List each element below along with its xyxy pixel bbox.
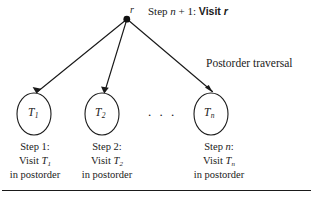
- step-caption-2-line2: Visit T2: [70, 154, 144, 168]
- step-caption-2-target-sub: 2: [119, 160, 123, 168]
- root-step-annotation: Step n + 1: Visit r: [148, 5, 228, 18]
- root-visit-target: r: [224, 5, 228, 17]
- step-caption-2-line3: in postorder: [70, 168, 144, 182]
- root-step-prefix: Step: [148, 5, 170, 17]
- step-caption-2-verb: Visit: [91, 155, 113, 166]
- step-caption-n-prefix: Step: [204, 141, 225, 152]
- subtree-label-n-sub: n: [211, 111, 215, 120]
- traversal-type-caption: Postorder traversal: [206, 57, 293, 70]
- step-caption-1-line3: in postorder: [0, 168, 70, 182]
- step-caption-2: Step 2: Visit T2 in postorder: [70, 140, 144, 182]
- edge-root-to-subtree-n: [128, 20, 213, 92]
- step-caption-n: Step n: Visit Tn in postorder: [178, 140, 260, 182]
- step-caption-1-line2: Visit T1: [0, 154, 70, 168]
- root-visit-verb: Visit: [199, 5, 224, 17]
- subtree-label-n-name: T: [204, 106, 210, 118]
- step-caption-1-line1: Step 1:: [0, 140, 70, 154]
- step-caption-n-verb: Visit: [203, 155, 225, 166]
- step-caption-n-target-sub: n: [231, 160, 235, 168]
- step-caption-n-suffix: :: [231, 141, 234, 152]
- step-caption-1-verb: Visit: [19, 155, 41, 166]
- subtree-label-n: Tn: [204, 106, 214, 118]
- step-caption-n-line2: Visit Tn: [178, 154, 260, 168]
- subtree-label-1-name: T: [28, 106, 34, 118]
- step-caption-n-line3: in postorder: [178, 168, 260, 182]
- subtree-label-2: T2: [95, 106, 105, 118]
- subtree-label-1: T1: [28, 106, 38, 118]
- edge-root-to-subtree-1: [37, 20, 127, 93]
- root-step-suffix: + 1:: [176, 5, 196, 17]
- root-visit-action: Visit r: [199, 5, 228, 17]
- root-node-dot: [123, 16, 130, 23]
- root-node-label: r: [130, 4, 134, 15]
- step-caption-2-line1: Step 2:: [70, 140, 144, 154]
- step-caption-1-target-sub: 1: [47, 160, 51, 168]
- ellipsis-dots: . . .: [148, 105, 177, 120]
- subtree-label-2-sub: 2: [102, 111, 106, 120]
- subtree-label-1-sub: 1: [35, 111, 39, 120]
- step-caption-1: Step 1: Visit T1 in postorder: [0, 140, 70, 182]
- step-caption-n-line1: Step n:: [178, 140, 260, 154]
- subtree-label-2-name: T: [95, 106, 101, 118]
- postorder-traversal-figure: r Step n + 1: Visit r Postorder traversa…: [0, 0, 313, 197]
- edge-root-to-subtree-2: [105, 20, 127, 93]
